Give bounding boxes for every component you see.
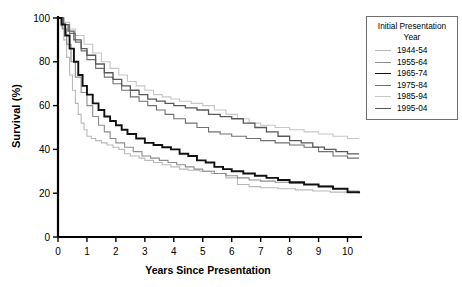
x-tick-label: 4 xyxy=(171,246,177,257)
y-axis-label: Survival (%) xyxy=(10,66,22,166)
legend-label: 1975-84 xyxy=(397,80,427,91)
x-tick-label: 2 xyxy=(113,246,119,257)
legend-item-1955-64[interactable]: 1955-64 xyxy=(370,57,454,69)
legend-item-1965-74[interactable]: 1965-74 xyxy=(370,68,454,80)
legend-swatch-line-icon xyxy=(375,108,391,109)
x-tick-label: 7 xyxy=(258,246,264,257)
legend-item-1985-94[interactable]: 1985-94 xyxy=(370,91,454,103)
legend-item-1975-84[interactable]: 1975-84 xyxy=(370,80,454,92)
y-tick-label: 100 xyxy=(33,13,50,24)
legend-swatch-line-icon xyxy=(375,62,391,63)
y-tick-label: 60 xyxy=(39,100,51,111)
legend-label: 1965-74 xyxy=(397,68,427,79)
series-line-1955-64 xyxy=(58,18,359,191)
chart-figure: 020406080100012345678910 Survival (%) Ye… xyxy=(0,0,372,287)
x-tick-label: 5 xyxy=(200,246,206,257)
plot-canvas: 020406080100012345678910 xyxy=(0,0,372,287)
x-tick-label: 10 xyxy=(342,246,354,257)
legend-item-1995-04[interactable]: 1995-04 xyxy=(370,103,454,115)
x-tick-label: 1 xyxy=(84,246,90,257)
y-tick-label: 0 xyxy=(44,232,50,243)
x-tick-label: 0 xyxy=(55,246,61,257)
legend-swatch-line-icon xyxy=(375,96,391,97)
legend-label: 1955-64 xyxy=(397,57,427,68)
x-tick-label: 9 xyxy=(316,246,322,257)
x-tick-label: 8 xyxy=(287,246,293,257)
legend-item-1944-54[interactable]: 1944-54 xyxy=(370,45,454,57)
x-tick-label: 6 xyxy=(229,246,235,257)
legend-label: 1944-54 xyxy=(397,45,427,56)
legend-label: 1985-94 xyxy=(397,91,427,102)
y-tick-label: 80 xyxy=(39,56,51,67)
legend-swatch-line-icon xyxy=(375,50,391,51)
series-line-1985-94 xyxy=(58,18,359,138)
legend-swatch-line-icon xyxy=(375,85,391,86)
series-line-1975-84 xyxy=(58,18,359,158)
legend-title: Initial Presentation Year xyxy=(370,21,454,42)
x-tick-label: 3 xyxy=(142,246,148,257)
y-tick-label: 40 xyxy=(39,144,51,155)
series-line-1995-04 xyxy=(58,18,359,154)
survival-chart-page: 020406080100012345678910 Survival (%) Ye… xyxy=(0,0,462,287)
x-axis-label: Years Since Presentation xyxy=(58,264,358,276)
legend-label: 1995-04 xyxy=(397,103,427,114)
chart-legend: Initial Presentation Year 1944-541955-64… xyxy=(366,16,458,120)
legend-swatch-line-icon xyxy=(375,73,391,74)
legend-rows: 1944-541955-641965-741975-841985-941995-… xyxy=(370,45,454,114)
y-tick-label: 20 xyxy=(39,188,51,199)
